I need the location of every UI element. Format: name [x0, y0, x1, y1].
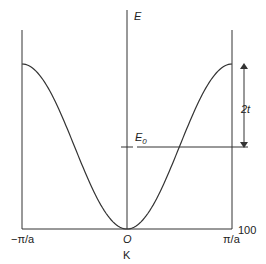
k-left-label: −π/a: [11, 233, 35, 245]
band-diagram: E E0 2t −π/a O π/a 100 K: [0, 0, 266, 264]
corner-number: 100: [238, 224, 256, 236]
k-axis-label: K: [123, 249, 131, 261]
e0-label: E0: [135, 131, 147, 146]
energy-axis-label: E: [134, 10, 142, 22]
bandwidth-label: 2t: [240, 103, 251, 115]
origin-label: O: [123, 233, 132, 245]
